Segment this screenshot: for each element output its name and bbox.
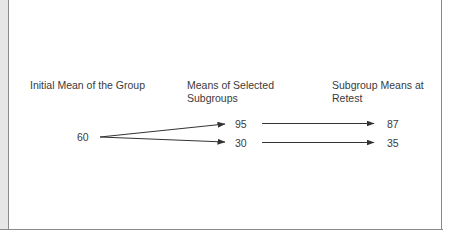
arrows-layer: [0, 0, 458, 236]
arrow-60-to-95: [100, 124, 225, 137]
arrow-60-to-30: [100, 137, 225, 142]
